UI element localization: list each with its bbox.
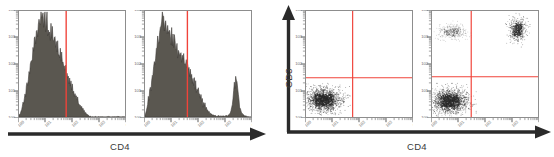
svg-text:102: 102	[134, 61, 142, 66]
flow-cytometry-figure: 100101102103104 100101102103104 10010110…	[0, 0, 554, 157]
svg-text:103: 103	[8, 34, 16, 39]
panel-1-histogram[interactable]	[18, 10, 126, 118]
svg-text:100: 100	[8, 115, 16, 118]
svg-text:104: 104	[8, 10, 16, 12]
dotplot-x-axis-label: CD4	[407, 141, 427, 152]
histogram-x-axis-label: CD4	[110, 141, 130, 152]
histogram-x-axis-arrow	[6, 126, 268, 142]
dotplot-axes-arrows	[279, 4, 554, 142]
histogram-group: 100101102103104 100101102103104 10010110…	[0, 0, 277, 157]
svg-text:100: 100	[134, 115, 142, 118]
panel-2-plot-area	[145, 11, 251, 117]
panel-2-histogram[interactable]	[144, 10, 252, 118]
panel-1-plot-area	[19, 11, 125, 117]
svg-text:102: 102	[8, 61, 16, 66]
svg-text:103: 103	[134, 34, 142, 39]
dotplot-y-axis-label: CD3	[283, 68, 294, 88]
svg-text:101: 101	[134, 88, 142, 93]
dotplot-group: 100101102103104 100101102103104 10010110…	[277, 0, 554, 157]
svg-text:101: 101	[8, 88, 16, 93]
panel-1-y-axis-ticks: 100101102103104	[8, 10, 18, 118]
panel-2-y-axis-ticks: 100101102103104	[134, 10, 144, 118]
svg-text:104: 104	[134, 10, 142, 12]
